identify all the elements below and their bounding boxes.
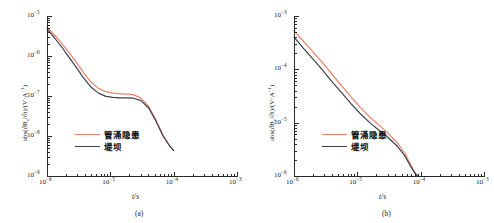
x-axis-tick-minor	[474, 174, 475, 176]
y-axis-tick-major	[295, 16, 299, 17]
x-axis-tick-label: 10−5	[349, 179, 362, 186]
x-axis-tick-minor	[395, 174, 396, 176]
legend-label: 堤坝	[104, 140, 122, 152]
x-axis-tick-minor	[343, 174, 344, 176]
x-axis-tick-minor	[223, 174, 224, 176]
chart-panel-b: abs(∂By/∂t)/(V·A−1) 管涌隐患堤坝 t/s (b) 10−61…	[247, 0, 494, 223]
y-axis-tick-minor	[295, 139, 297, 140]
y-axis-tick-minor	[295, 128, 297, 129]
x-axis-tick-minor	[171, 174, 172, 176]
x-axis-tick-minor	[407, 174, 408, 176]
y-axis-tick-minor	[295, 81, 297, 82]
y-label-superscript: −1	[267, 87, 272, 92]
legend-color-swatch	[75, 134, 100, 135]
y-axis-tick-label: 10−6	[274, 172, 287, 179]
y-axis-tick-minor	[48, 164, 50, 165]
x-axis-tick-minor	[91, 174, 92, 176]
x-axis-tick-label: 10−4	[413, 179, 426, 186]
y-axis-tick-minor	[48, 20, 50, 21]
legend-color-swatch	[75, 146, 100, 147]
x-axis-tick-minor	[332, 174, 333, 176]
y-axis-tick-minor	[295, 97, 297, 98]
y-axis-tick-minor	[295, 44, 297, 45]
y-axis-tick-minor	[48, 98, 50, 99]
x-axis-tick-minor	[104, 174, 105, 176]
legend-color-swatch	[322, 134, 347, 135]
y-axis-tick-label: 10−4	[274, 65, 287, 72]
x-axis-tick-minor	[440, 174, 441, 176]
y-axis-tick-minor	[48, 25, 50, 26]
y-axis-tick-minor	[48, 152, 50, 153]
x-axis-tick-minor	[402, 174, 403, 176]
y-axis-tick-minor	[48, 100, 50, 101]
x-axis-tick-minor	[388, 174, 389, 176]
x-axis-tick-minor	[227, 174, 228, 176]
legend-label: 管涌隐患	[104, 128, 140, 140]
x-axis-tick-minor	[129, 174, 130, 176]
y-axis-tick-minor	[295, 24, 297, 25]
x-axis-tick-label: 10−4	[166, 179, 179, 186]
x-axis-label-a: t/s	[132, 192, 139, 201]
y-axis-tick-label: 10−5	[274, 119, 287, 126]
y-axis-tick-major	[295, 176, 299, 177]
y-axis-tick-minor	[295, 78, 297, 79]
y-axis-tick-minor	[295, 32, 297, 33]
y-axis-tick-minor	[48, 44, 50, 45]
x-axis-tick-minor	[234, 174, 235, 176]
y-axis-tick-minor	[48, 32, 50, 33]
curve-group-b	[294, 16, 484, 176]
y-axis-tick-major	[48, 16, 52, 17]
x-axis-tick-label: 10−6	[39, 179, 52, 186]
y-axis-tick-minor	[295, 72, 297, 73]
y-axis-tick-minor	[48, 105, 50, 106]
x-axis-tick-minor	[155, 174, 156, 176]
x-axis-tick-minor	[164, 174, 165, 176]
y-axis-tick-label: 10−6	[27, 52, 40, 59]
y-axis-tick-minor	[48, 65, 50, 66]
y-axis-tick-minor	[48, 72, 50, 73]
y-label-subscript: z	[25, 119, 30, 121]
x-axis-tick-minor	[66, 174, 67, 176]
legend-item[interactable]: 管涌隐患	[322, 128, 387, 140]
y-axis-tick-minor	[48, 148, 50, 149]
legend-item[interactable]: 管涌隐患	[75, 128, 140, 140]
x-axis-tick-minor	[459, 174, 460, 176]
y-axis-tick-minor	[48, 145, 50, 146]
y-axis-tick-minor	[295, 37, 297, 38]
y-axis-tick-minor	[295, 125, 297, 126]
x-axis-tick-minor	[96, 174, 97, 176]
x-axis-tick-minor	[101, 174, 102, 176]
y-axis-tick-minor	[295, 151, 297, 152]
y-axis-tick-minor	[48, 142, 50, 143]
plot-area-b	[294, 16, 484, 176]
x-axis-tick-minor	[85, 174, 86, 176]
subplot-caption-a: (a)	[135, 209, 143, 218]
y-axis-tick-major	[48, 96, 52, 97]
y-axis-tick-minor	[48, 84, 50, 85]
x-axis-tick-minor	[411, 174, 412, 176]
y-axis-tick-minor	[295, 28, 297, 29]
x-axis-tick-minor	[218, 174, 219, 176]
y-axis-tick-minor	[295, 131, 297, 132]
y-axis-tick-minor	[295, 134, 297, 135]
x-axis-tick-minor	[481, 174, 482, 176]
y-axis-spine	[294, 16, 295, 176]
y-axis-tick-minor	[295, 107, 297, 108]
x-axis-tick-minor	[478, 174, 479, 176]
legend-label: 堤坝	[351, 140, 369, 152]
x-axis-tick-minor	[160, 174, 161, 176]
legend-item[interactable]: 堤坝	[75, 140, 140, 152]
y-axis-tick-minor	[48, 62, 50, 63]
x-axis-tick-label: 10−5	[102, 179, 115, 186]
y-axis-tick-minor	[48, 140, 50, 141]
y-axis-tick-major	[48, 176, 52, 177]
subplot-caption-b: (b)	[382, 209, 391, 218]
y-axis-tick-minor	[48, 108, 50, 109]
y-axis-tick-major	[295, 69, 299, 70]
x-axis-tick-minor	[470, 174, 471, 176]
y-axis-tick-minor	[295, 160, 297, 161]
x-axis-tick-minor	[141, 174, 142, 176]
legend-item[interactable]: 堤坝	[322, 140, 387, 152]
y-axis-tick-minor	[48, 124, 50, 125]
chart-panel-a: abs(∂Bz/∂t)/(V·A−1) 管涌隐患堤坝 t/s (a) 10−61…	[0, 0, 247, 223]
